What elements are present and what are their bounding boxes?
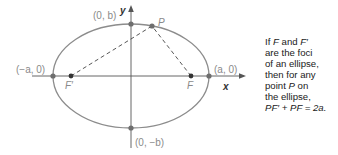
left-vertex-point (50, 73, 55, 78)
label-right-vertex: (a, 0) (214, 64, 237, 75)
label-x-axis: x (222, 81, 229, 92)
label-top-vertex: (0, b) (93, 10, 116, 21)
caption-text: point (265, 80, 288, 91)
label-focus-right: F (187, 80, 194, 91)
right-vertex-point (206, 73, 211, 78)
caption-focus-f-prime: F′ (300, 36, 308, 47)
caption-line-6: the ellipse, (265, 91, 337, 102)
caption: If F and F′ are the foci of an ellipse, … (265, 36, 337, 113)
bottom-vertex-point (128, 125, 133, 130)
caption-equation: PF′ + PF = 2a. (265, 102, 337, 113)
x-axis-arrow-icon (239, 73, 246, 79)
caption-line-2: are the foci (265, 47, 337, 58)
segment-pf (152, 26, 191, 76)
label-focus-left: F′ (65, 80, 74, 91)
segment-pf-prime (71, 26, 152, 76)
caption-text: If (265, 36, 273, 47)
label-left-vertex: (−a, 0) (16, 64, 45, 75)
label-bottom-vertex: (0, −b) (135, 137, 164, 148)
caption-line-3: of an ellipse, (265, 58, 337, 69)
focus-left-point (69, 74, 74, 79)
focus-right-point (189, 74, 194, 79)
ellipse-diagram: (−a, 0) (a, 0) (0, b) (0, −b) F′ F P x y (0, 0, 260, 155)
top-vertex-point (128, 21, 133, 26)
caption-line-5: point P on (265, 80, 337, 91)
label-y-axis: y (119, 5, 126, 16)
y-axis-arrow-icon (128, 5, 134, 12)
label-point-p: P (158, 17, 165, 28)
caption-line-4: then for any (265, 69, 337, 80)
point-p (149, 23, 154, 28)
caption-line-1: If F and F′ (265, 36, 337, 47)
caption-text: on (295, 80, 308, 91)
caption-text: and (279, 36, 300, 47)
